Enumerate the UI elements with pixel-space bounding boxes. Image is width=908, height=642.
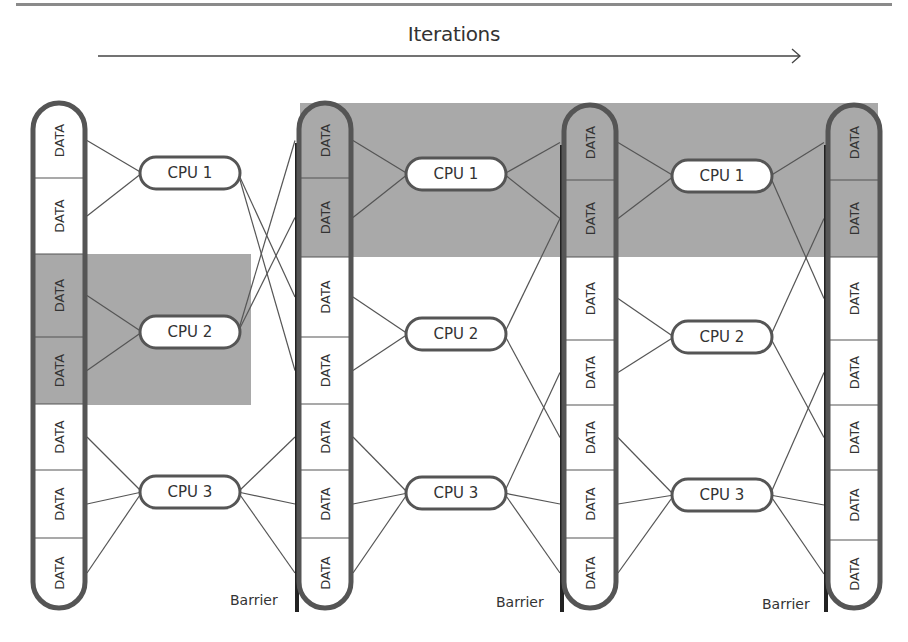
cpu-label: CPU 1: [168, 164, 213, 182]
highlight-regions: [84, 103, 878, 405]
connector: [618, 299, 674, 338]
connector: [353, 493, 408, 504]
data-label: DATA: [583, 202, 598, 236]
iterations-arrow: [98, 49, 800, 63]
data-segment: DATA: [847, 488, 862, 522]
connector: [504, 373, 560, 494]
cpu-label: CPU 2: [434, 325, 479, 343]
data-column-col-2: DATADATADATADATADATADATADATA: [299, 103, 351, 608]
connector: [238, 492, 295, 504]
data-label: DATA: [52, 487, 67, 521]
barrier-label: Barrier: [762, 596, 810, 612]
data-segment: DATA: [583, 356, 598, 390]
cpu-label: CPU 3: [434, 484, 479, 502]
connector: [87, 492, 142, 573]
data-segment: DATA: [564, 180, 616, 257]
connector: [87, 141, 142, 174]
data-label: DATA: [583, 282, 598, 316]
data-segment: DATA: [318, 354, 333, 388]
connector: [353, 493, 408, 573]
cpu-label: CPU 3: [168, 483, 213, 501]
connector: [504, 334, 560, 438]
data-segment: DATA: [847, 421, 862, 455]
data-label: DATA: [583, 356, 598, 390]
connector: [353, 437, 408, 493]
data-label: DATA: [847, 356, 862, 390]
data-label: DATA: [52, 124, 67, 158]
data-column-col-4: DATADATADATADATADATADATADATA: [828, 105, 880, 608]
connector: [87, 492, 142, 504]
data-label: DATA: [847, 557, 862, 591]
data-segment: DATA: [583, 421, 598, 455]
data-label: DATA: [583, 487, 598, 521]
connector: [238, 492, 295, 573]
connector: [618, 495, 674, 504]
cpu-node: CPU 2: [140, 316, 240, 348]
data-segment: DATA: [564, 105, 616, 180]
cpu-node: CPU 3: [140, 476, 240, 508]
data-label: DATA: [583, 556, 598, 590]
cpu-node: CPU 3: [406, 477, 506, 509]
data-label: DATA: [318, 556, 333, 590]
cpu-node: CPU 2: [672, 321, 772, 353]
data-segment: DATA: [828, 105, 880, 180]
data-label: DATA: [583, 126, 598, 160]
cpu-node: CPU 3: [672, 479, 772, 511]
connector: [618, 438, 674, 496]
data-segment: DATA: [299, 103, 351, 178]
connector: [87, 437, 142, 492]
connector: [770, 337, 824, 438]
connector: [353, 334, 408, 371]
data-column-col-1: DATADATADATADATADATADATADATA: [33, 103, 85, 608]
data-label: DATA: [318, 201, 333, 235]
data-label: DATA: [318, 280, 333, 314]
barrier-label: Barrier: [230, 592, 278, 608]
connector: [353, 297, 408, 334]
connector: [87, 173, 142, 216]
cpu-label: CPU 2: [168, 323, 213, 341]
parallel-iterations-diagram: DATADATADATADATADATADATADATADATADATADATA…: [0, 0, 908, 642]
connector: [770, 495, 824, 505]
data-segment: DATA: [299, 178, 351, 257]
data-label: DATA: [52, 556, 67, 590]
cpu-label: CPU 2: [700, 328, 745, 346]
data-segment: DATA: [847, 557, 862, 591]
data-label: DATA: [52, 420, 67, 454]
data-segment: DATA: [847, 356, 862, 390]
connector: [770, 373, 824, 496]
data-label: DATA: [847, 282, 862, 316]
data-segment: DATA: [828, 180, 880, 257]
data-segment: DATA: [52, 556, 67, 590]
data-label: DATA: [52, 354, 67, 388]
data-segment: DATA: [847, 282, 862, 316]
connector: [504, 493, 560, 573]
cpu-label: CPU 3: [700, 486, 745, 504]
connector: [238, 437, 295, 492]
data-label: DATA: [847, 421, 862, 455]
data-label: DATA: [318, 487, 333, 521]
data-segment: DATA: [318, 280, 333, 314]
data-segment: DATA: [318, 420, 333, 454]
data-label: DATA: [52, 279, 67, 313]
data-segment: DATA: [583, 282, 598, 316]
data-segment: DATA: [52, 124, 67, 158]
data-segment: DATA: [33, 337, 85, 404]
data-label: DATA: [847, 126, 862, 160]
data-segment: DATA: [33, 254, 85, 337]
data-column-col-3: DATADATADATADATADATADATADATA: [564, 105, 616, 608]
cpu-node: CPU 1: [406, 158, 506, 190]
connector: [618, 337, 674, 373]
data-label: DATA: [52, 199, 67, 233]
barrier-label: Barrier: [496, 594, 544, 610]
connector: [618, 495, 674, 573]
connector: [238, 141, 295, 333]
cpu-label: CPU 1: [700, 167, 745, 185]
data-segment: DATA: [583, 556, 598, 590]
cpu-label: CPU 1: [434, 165, 479, 183]
data-label: DATA: [847, 488, 862, 522]
data-segment: DATA: [318, 556, 333, 590]
data-label: DATA: [318, 354, 333, 388]
data-segment: DATA: [52, 199, 67, 233]
data-segment: DATA: [583, 487, 598, 521]
connector: [504, 493, 560, 504]
